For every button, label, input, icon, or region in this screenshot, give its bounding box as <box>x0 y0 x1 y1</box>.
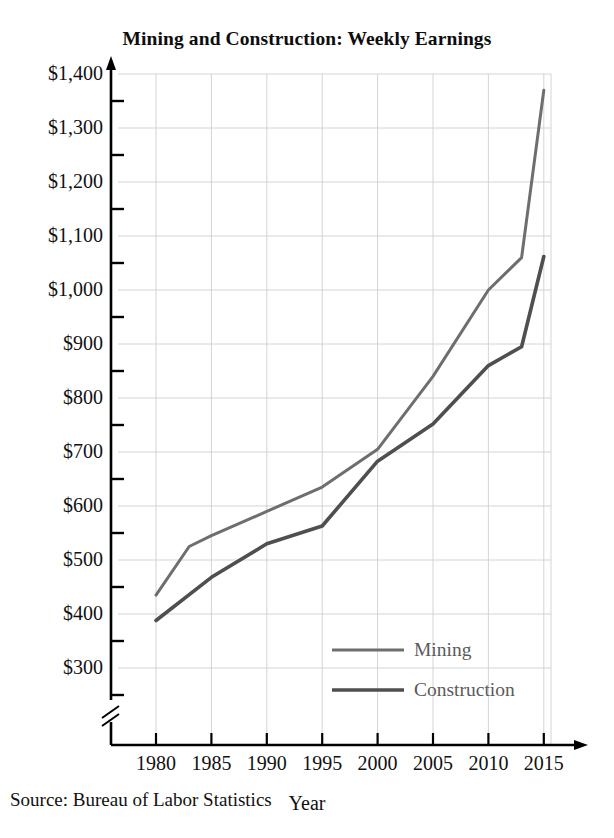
y-tick-label: $600 <box>3 495 103 515</box>
series-line-mining <box>156 90 544 595</box>
y-tick-label: $1,300 <box>3 117 103 137</box>
axis-lines <box>102 56 588 750</box>
data-series-lines <box>156 90 544 620</box>
x-tick-label: 2015 <box>509 753 579 773</box>
y-tick-label: $300 <box>3 657 103 677</box>
y-tick-label: $1,100 <box>3 225 103 245</box>
y-tick-label: $1,000 <box>3 279 103 299</box>
gridlines <box>118 74 551 745</box>
chart-title: Mining and Construction: Weekly Earnings <box>0 28 614 50</box>
y-tick-label: $800 <box>3 387 103 407</box>
legend-label-construction: Construction <box>414 680 515 700</box>
y-tick-label: $500 <box>3 549 103 569</box>
y-tick-label: $400 <box>3 603 103 623</box>
source-note: Source: Bureau of Labor Statistics <box>10 789 272 811</box>
series-line-construction <box>156 257 544 621</box>
y-tick-label: $1,200 <box>3 171 103 191</box>
y-tick-label: $700 <box>3 441 103 461</box>
y-tick-label: $1,400 <box>3 63 103 83</box>
legend-swatches <box>332 650 404 690</box>
tick-marks <box>111 101 544 745</box>
legend-label-mining: Mining <box>414 640 471 660</box>
chart-figure: Mining and Construction: Weekly Earnings… <box>0 0 614 838</box>
y-tick-label: $900 <box>3 333 103 353</box>
